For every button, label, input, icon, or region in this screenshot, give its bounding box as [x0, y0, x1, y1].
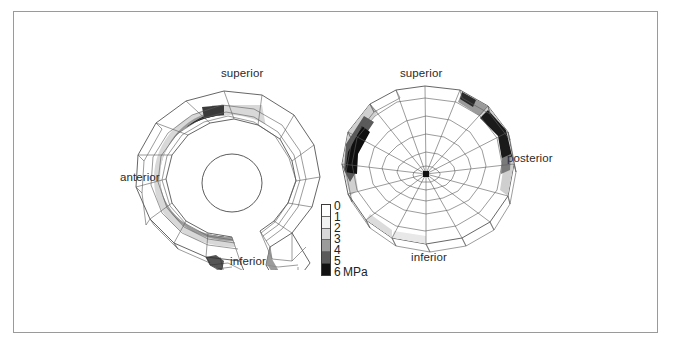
- figure-canvas: 0 1 2 3 4 5 6 MPa superior anterior infe…: [0, 0, 674, 347]
- label-right-posterior: posterior: [507, 152, 553, 165]
- colorbar-band-2-3: [322, 229, 330, 241]
- stress-colorbar: [321, 204, 331, 276]
- colorbar-band-0-1: [322, 205, 330, 217]
- colorbar-unit-label: MPa: [343, 267, 368, 278]
- right-mesh-center-node: [423, 171, 429, 177]
- colorbar-band-4-5: [322, 252, 330, 264]
- colorbar-band-3-4: [322, 240, 330, 252]
- label-left-superior: superior: [221, 67, 263, 80]
- label-left-inferior: inferior: [230, 255, 266, 268]
- right-stress-field: [342, 92, 514, 244]
- colorbar-band-5-6: [322, 264, 330, 275]
- right-panel-mesh: [330, 78, 535, 263]
- label-right-inferior: inferior: [411, 251, 447, 264]
- colorbar-band-1-2: [322, 217, 330, 229]
- right-mesh-rings: [352, 98, 502, 231]
- label-left-anterior: anterior: [120, 171, 160, 184]
- colorbar-tick-6: 6: [334, 267, 341, 278]
- label-right-superior: superior: [400, 67, 442, 80]
